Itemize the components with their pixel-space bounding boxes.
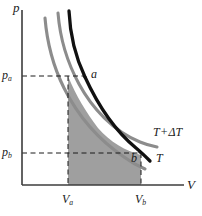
y-axis-label: p (13, 1, 20, 14)
x-axis-label: V (187, 178, 195, 191)
state-point-b (138, 150, 141, 153)
curve-hot-base: T (153, 125, 160, 139)
x-tick-label-va: Va (62, 193, 73, 205)
state-point-a (83, 75, 86, 78)
curve-label-hot-isotherm: T+ΔT (153, 126, 182, 138)
y-tick-label-pa: pa (2, 69, 12, 81)
state-label-b: b (131, 152, 137, 164)
curve-label-cold-isotherm: T (156, 152, 163, 164)
y-tick-pa-sub: a (8, 74, 12, 83)
shaded-work-region (68, 76, 141, 185)
x-tick-vb-sub: b (142, 198, 146, 207)
curve-hot-delta: ΔT (168, 125, 182, 139)
plot-canvas (0, 0, 202, 216)
y-tick-pb-sub: b (8, 151, 12, 160)
state-label-a: a (91, 68, 97, 80)
y-tick-label-pb: pb (2, 146, 12, 158)
pv-diagram-figure: p V pa pb Va Vb a b T+ΔT T (0, 0, 202, 216)
x-tick-va-sub: a (69, 198, 73, 207)
x-tick-label-vb: Vb (135, 193, 146, 205)
